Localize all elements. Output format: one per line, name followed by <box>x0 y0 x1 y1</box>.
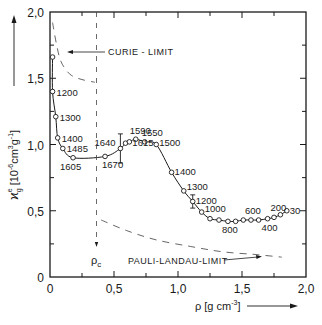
y-axis-arrow <box>12 15 17 86</box>
curie-limit-curve <box>53 23 95 83</box>
data-point <box>50 55 55 60</box>
data-point <box>181 189 186 194</box>
point-label: 600 <box>245 205 261 216</box>
susceptibility-density-chart: 00,51,01,52,000,51,01,52,0 1200130014001… <box>0 0 322 325</box>
point-label: 1200 <box>57 87 78 98</box>
rho-c-label: ρc <box>91 254 101 269</box>
x-axis-title: ρ [g cm-3] <box>195 299 298 312</box>
y-tick-label: 0,5 <box>27 205 44 219</box>
x-tick-label: 1,0 <box>170 282 187 296</box>
point-label: 1400 <box>62 133 83 144</box>
x-tick-label: 1,5 <box>234 282 251 296</box>
data-point <box>226 219 231 224</box>
data-point <box>61 146 66 151</box>
data-point <box>249 218 254 223</box>
point-label: 1605 <box>60 161 81 172</box>
data-point <box>190 199 195 204</box>
pauli-landau-annotation: PAULI-LANDAU-LIMIT <box>128 255 262 266</box>
pauli-landau-label: PAULI-LANDAU-LIMIT <box>128 256 228 266</box>
data-point <box>53 114 58 119</box>
point-label: 1000 <box>205 203 226 214</box>
point-label: 1640 <box>94 137 115 148</box>
x-tick-label: 0,5 <box>106 282 123 296</box>
svg-text:ϰeg[10-6cm3g-1]: ϰeg[10-6cm3g-1] <box>6 130 23 200</box>
data-point <box>118 146 123 151</box>
data-point <box>71 155 76 160</box>
point-label: 30 <box>290 205 301 216</box>
data-point <box>265 216 270 221</box>
data-point <box>208 216 213 221</box>
data-point <box>256 218 261 223</box>
point-label: 1500 <box>159 137 180 148</box>
point-label: 800 <box>222 224 238 235</box>
data-point <box>241 218 246 223</box>
data-point <box>127 140 132 145</box>
point-label: 1300 <box>60 112 81 123</box>
data-point <box>199 210 204 215</box>
point-label: 1300 <box>187 181 208 192</box>
x-tick-label: 0 <box>47 282 54 296</box>
point-label: 1615 <box>132 137 153 148</box>
y-axis-title: ϰeg[10-6cm3g-1] <box>6 130 23 200</box>
data-point <box>50 89 55 94</box>
data-point <box>217 218 222 223</box>
curie-limit-label: CURIE - LIMIT <box>108 47 174 57</box>
point-label: 400 <box>262 222 278 233</box>
data-point <box>103 154 108 159</box>
point-label: 200 <box>270 202 286 213</box>
data-point <box>169 170 174 175</box>
data-point <box>278 212 283 217</box>
y-tick-label: 0 <box>37 271 44 285</box>
point-labels: 1200130014001485160516701640161515901550… <box>57 87 301 236</box>
point-label: 1670 <box>102 159 123 170</box>
pauli-landau-limit-curve <box>101 220 281 257</box>
data-point <box>55 136 60 141</box>
data-point <box>154 142 159 147</box>
y-tick-label: 1,0 <box>27 139 44 153</box>
x-tick-label: 2,0 <box>298 282 315 296</box>
y-tick-label: 2,0 <box>27 6 44 20</box>
point-label: 1485 <box>67 143 88 154</box>
y-tick-label: 1,5 <box>27 72 44 86</box>
data-point <box>272 215 277 220</box>
point-label: 1400 <box>175 166 196 177</box>
data-point <box>233 219 238 224</box>
svg-text:ρ [g cm-3]: ρ [g cm-3] <box>195 299 241 312</box>
curie-limit-annotation: CURIE - LIMIT <box>67 47 174 57</box>
